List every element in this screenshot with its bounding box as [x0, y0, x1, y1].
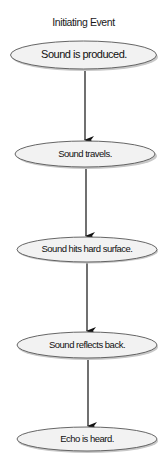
node-label-5: Echo is heard.	[17, 433, 157, 445]
node-label-2: Sound travels.	[15, 148, 155, 160]
node-label-3: Sound hits hard surface.	[17, 243, 157, 255]
flow-diagram	[0, 0, 167, 464]
node-label-1: Sound is produced.	[14, 48, 154, 60]
node-label-4: Sound reflects back.	[17, 339, 157, 351]
